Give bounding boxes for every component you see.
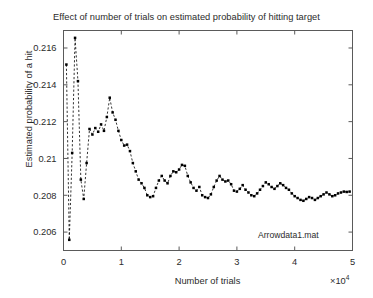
- data-point-marker: [187, 175, 190, 178]
- y-tick-label: 0.214: [33, 80, 56, 90]
- series-path: [66, 38, 349, 240]
- y-tick-label: 0.208: [33, 191, 56, 201]
- data-point-marker: [68, 239, 71, 242]
- data-point-marker: [106, 116, 109, 119]
- data-point-marker: [227, 179, 230, 182]
- data-point-marker: [94, 127, 97, 130]
- data-point-marker: [201, 194, 204, 197]
- data-point-marker: [169, 175, 172, 178]
- plot-area: 0123450.2060.2080.210.2120.2140.216: [0, 0, 373, 298]
- data-point-marker: [137, 178, 140, 181]
- data-point-marker: [345, 191, 348, 194]
- data-point-marker: [296, 197, 299, 200]
- data-point-marker: [189, 181, 192, 184]
- data-point-marker: [221, 178, 224, 181]
- data-point-marker: [233, 189, 236, 192]
- data-point-marker: [172, 170, 175, 173]
- data-point-marker: [340, 191, 343, 194]
- data-point-marker: [146, 194, 149, 197]
- data-point-marker: [82, 198, 85, 201]
- data-point-marker: [135, 170, 138, 173]
- data-point-marker: [241, 184, 244, 187]
- data-point-marker: [334, 194, 337, 197]
- data-point-marker: [325, 191, 328, 194]
- data-point-marker: [140, 182, 143, 185]
- data-point-marker: [331, 195, 334, 198]
- data-point-marker: [143, 187, 146, 190]
- data-point-marker: [285, 187, 288, 190]
- data-point-marker: [291, 192, 294, 195]
- data-point-marker: [279, 182, 282, 185]
- data-point-marker: [293, 195, 296, 198]
- data-point-marker: [299, 199, 302, 202]
- data-point-marker: [270, 186, 273, 189]
- y-tick-label: 0.212: [33, 117, 56, 127]
- data-point-marker: [192, 187, 195, 190]
- data-point-marker: [256, 192, 259, 195]
- data-point-marker: [108, 96, 111, 99]
- dataset-annotation: Arrowdata1.mat: [258, 230, 319, 240]
- data-point-marker: [215, 179, 218, 182]
- data-point-marker: [218, 175, 221, 178]
- x-exponent-power: 4: [346, 274, 350, 281]
- data-series-line: [66, 38, 349, 240]
- data-point-marker: [236, 190, 239, 193]
- data-point-marker: [88, 128, 91, 130]
- data-point-marker: [184, 165, 187, 168]
- y-tick-label: 0.21: [38, 154, 56, 164]
- y-tick-label: 0.206: [33, 227, 56, 237]
- data-point-marker: [117, 130, 120, 133]
- data-point-marker: [85, 162, 88, 165]
- data-point-marker: [195, 189, 198, 192]
- data-point-marker: [155, 187, 158, 190]
- data-point-marker: [71, 152, 74, 155]
- x-axis-label: Number of trials: [63, 276, 352, 286]
- data-point-marker: [348, 190, 351, 193]
- data-point-marker: [317, 197, 320, 200]
- data-point-marker: [319, 195, 322, 198]
- data-point-marker: [308, 196, 311, 199]
- data-point-marker: [337, 192, 340, 195]
- x-tick-label: 0: [61, 257, 66, 267]
- data-point-marker: [126, 143, 129, 146]
- data-point-marker: [97, 131, 100, 134]
- axes-border: [64, 31, 353, 251]
- data-point-marker: [158, 179, 161, 182]
- x-tick-label: 2: [177, 257, 182, 267]
- y-tick-label: 0.216: [33, 43, 56, 53]
- data-point-marker: [314, 199, 317, 202]
- data-point-marker: [120, 139, 123, 142]
- data-point-marker: [132, 162, 135, 165]
- data-point-marker: [161, 175, 164, 178]
- data-point-marker: [74, 37, 77, 40]
- data-point-marker: [267, 183, 270, 186]
- data-point-marker: [247, 191, 250, 194]
- data-point-marker: [65, 63, 68, 65]
- data-point-marker: [305, 198, 308, 201]
- data-point-marker: [114, 119, 117, 122]
- data-point-marker: [322, 193, 325, 196]
- data-point-marker: [244, 189, 247, 192]
- x-tick-label: 5: [350, 257, 355, 267]
- x-tick-label: 3: [234, 257, 239, 267]
- data-point-marker: [259, 189, 262, 192]
- data-point-marker: [273, 188, 276, 191]
- data-point-marker: [111, 111, 114, 114]
- data-point-marker: [230, 183, 233, 186]
- data-point-marker: [302, 200, 305, 203]
- data-point-marker: [163, 179, 166, 182]
- data-point-marker: [100, 123, 103, 126]
- data-point-marker: [239, 188, 242, 191]
- data-point-marker: [262, 185, 265, 188]
- data-point-marker: [253, 195, 256, 198]
- figure-canvas: Effect of number of trials on estimated …: [0, 0, 373, 298]
- data-point-marker: [152, 195, 155, 198]
- data-point-marker: [276, 185, 279, 188]
- axes-box: [64, 31, 353, 251]
- data-point-marker: [250, 194, 253, 197]
- data-point-marker: [178, 168, 181, 171]
- x-tick-label: 4: [292, 257, 297, 267]
- data-point-marker: [213, 186, 216, 189]
- data-point-marker: [80, 178, 83, 181]
- y-axis-label: Estimated probability of a hit: [24, 9, 34, 209]
